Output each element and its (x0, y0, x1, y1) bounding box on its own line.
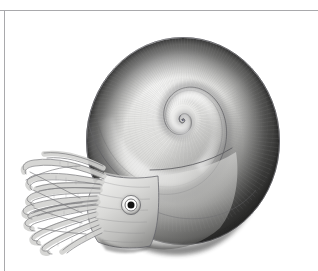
ammonite-illustration: Ammonite (coiled nautiloid cephalopod) (0, 0, 318, 271)
figure-root: Ammonite (coiled nautiloid cephalopod) (0, 0, 318, 271)
